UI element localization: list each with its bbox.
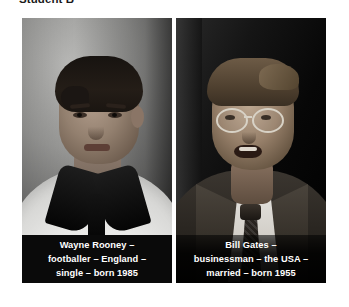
eye-right (108, 112, 122, 118)
eyeglasses-bridge (244, 116, 252, 118)
necktie-knot (240, 204, 261, 220)
photo-caption-bill-gates: Bill Gates – businessman – the USA – mar… (176, 235, 326, 283)
hair (207, 58, 299, 106)
caption-line-1: Wayne Rooney – (48, 238, 146, 252)
caption-line-1: Bill Gates – (194, 238, 308, 252)
caption-line-3: single – born 1985 (48, 266, 146, 280)
caption-line-2: footballer – England – (48, 252, 146, 266)
caption-line-2: businessman – the USA – (194, 252, 308, 266)
hair (55, 56, 143, 112)
nose (88, 118, 104, 140)
photo-card-bill-gates: Bill Gates – businessman – the USA – mar… (176, 18, 326, 283)
eye-left (73, 112, 87, 118)
photo-caption-wayne-rooney: Wayne Rooney – footballer – England – si… (22, 235, 172, 283)
mouth (84, 144, 110, 151)
page-title: Student B (19, 0, 74, 5)
mouth (234, 145, 262, 158)
student-b-photo-pair: ENGLAND Wayne Rooney – footballer – Engl… (22, 18, 326, 283)
ear (131, 106, 144, 128)
eyeglasses-lens-right (252, 108, 284, 133)
nose (242, 122, 256, 144)
caption-line-3: married – born 1955 (194, 266, 308, 280)
photo-card-wayne-rooney: ENGLAND Wayne Rooney – footballer – Engl… (22, 18, 172, 283)
